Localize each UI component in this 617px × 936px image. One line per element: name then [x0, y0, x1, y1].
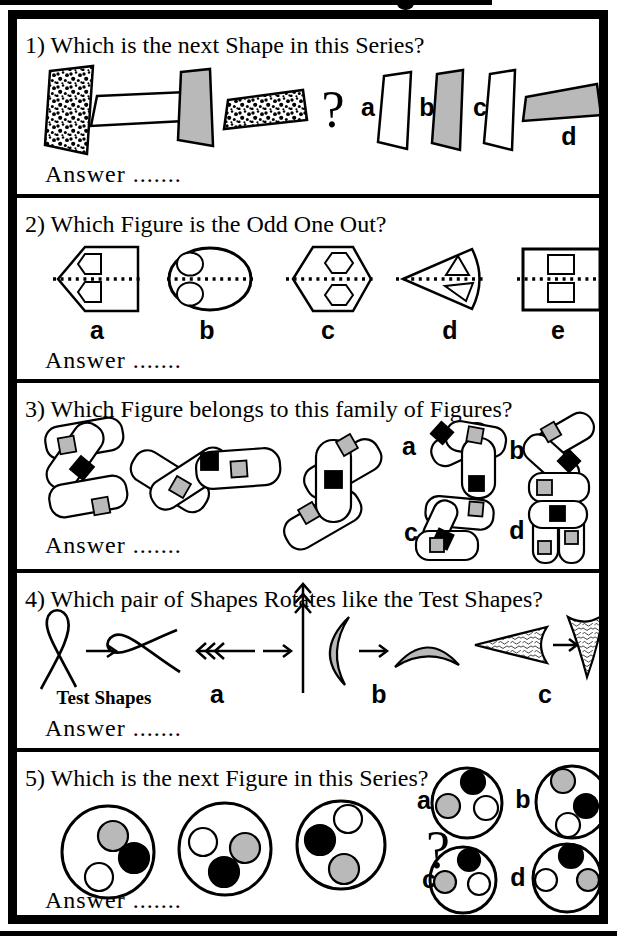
q2-figure-c[interactable] — [286, 247, 377, 311]
question-4-answer-blank[interactable]: Answer ....... — [45, 715, 182, 742]
q2-option-a-label[interactable]: a — [90, 316, 105, 344]
q3-family-figure-2 — [126, 442, 282, 517]
q3-option-d-label[interactable]: d — [509, 516, 524, 544]
scan-edge-artifact — [0, 931, 617, 936]
q5-series-circle-3 — [297, 801, 385, 889]
question-3-box: 3) Which Figure belongs to this family o… — [14, 380, 602, 572]
question-5-box: 5) Which is the next Figure in this Seri… — [14, 749, 602, 918]
q3-option-c-shape[interactable] — [416, 495, 495, 560]
q3-family-figure-1 — [41, 415, 129, 519]
q1-option-d-shape[interactable] — [523, 84, 599, 121]
cropped-page-title-remnant — [0, 0, 617, 10]
q1-option-b-shape[interactable] — [432, 70, 463, 150]
q2-option-c-label[interactable]: c — [321, 316, 335, 344]
q2-figure-d[interactable] — [396, 249, 485, 309]
q4-option-b-shape[interactable] — [330, 617, 459, 685]
q1-option-d-label[interactable]: d — [561, 122, 576, 150]
question-2-box: 2) Which Figure is the Odd One Out? — [14, 195, 602, 382]
q3-option-b-shape[interactable] — [518, 408, 598, 502]
q1-option-a-label[interactable]: a — [361, 93, 376, 121]
q3-option-a-shape[interactable] — [427, 419, 508, 498]
question-1-box: 1) Which is the next Shape in this Serie… — [14, 16, 602, 197]
q3-family-figure-3 — [279, 434, 387, 555]
q3-option-b-label[interactable]: b — [509, 436, 524, 464]
q5-option-b-shape[interactable] — [536, 766, 599, 838]
q1-option-c-shape[interactable] — [484, 70, 515, 150]
q3-option-d-shape[interactable] — [529, 501, 587, 563]
q5-option-a-shape[interactable] — [432, 768, 502, 838]
question-1-answer-blank[interactable]: Answer ....... — [45, 161, 182, 188]
q5-series-circle-1 — [62, 806, 154, 898]
q2-figure-a[interactable] — [53, 247, 143, 311]
q1-option-c-label[interactable]: c — [473, 93, 487, 121]
q5-option-b-label[interactable]: b — [515, 785, 530, 813]
q1-series-shape-4 — [224, 90, 307, 129]
q1-series-shape-3 — [178, 69, 213, 146]
question-2-answer-blank[interactable]: Answer ....... — [45, 347, 182, 374]
q2-option-b-label[interactable]: b — [199, 316, 214, 344]
question-1-title: 1) Which is the next Shape in this Serie… — [25, 32, 424, 60]
title-g-descender — [396, 0, 415, 10]
question-4-box: 4) Which pair of Shapes Rotates like the… — [14, 570, 602, 751]
q4-test-shapes-label: Test Shapes — [57, 687, 152, 708]
question-4-title: 4) Which pair of Shapes Rotates like the… — [25, 586, 543, 614]
q4-option-c-shape[interactable] — [475, 615, 599, 677]
q1-question-mark: ? — [321, 81, 344, 138]
q5-series-circle-2 — [179, 803, 271, 895]
q1-series-shape-1 — [45, 66, 93, 154]
q1-series: ? — [45, 66, 345, 154]
q2-figure-b[interactable] — [167, 248, 253, 310]
question-5-answer-blank[interactable]: Answer ....... — [45, 887, 182, 914]
q4-option-c-label[interactable]: c — [538, 680, 552, 708]
question-3-answer-blank[interactable]: Answer ....... — [45, 532, 182, 559]
q4-option-a-label[interactable]: a — [210, 680, 225, 708]
question-3-title: 3) Which Figure belongs to this family o… — [25, 396, 513, 424]
q4-option-b-label[interactable]: b — [371, 680, 386, 708]
question-5-title: 5) Which is the next Figure in this Seri… — [25, 765, 429, 793]
q4-test-shapes: Test Shapes — [41, 610, 180, 708]
q2-option-e-label[interactable]: e — [551, 316, 565, 344]
q5-option-c-shape[interactable] — [430, 847, 496, 913]
q3-option-a-label[interactable]: a — [402, 432, 417, 460]
worksheet-frame: 1) Which is the next Shape in this Serie… — [8, 10, 608, 924]
question-2-title: 2) Which Figure is the Odd One Out? — [25, 211, 387, 239]
q5-option-d-shape[interactable] — [533, 844, 599, 912]
q5-option-d-label[interactable]: d — [510, 863, 525, 891]
title-bar-remnant — [0, 0, 492, 5]
q1-option-b-label[interactable]: b — [419, 93, 434, 121]
q1-option-a-shape[interactable] — [378, 72, 411, 149]
q2-option-d-label[interactable]: d — [442, 316, 457, 344]
q2-figure-e[interactable] — [517, 249, 599, 310]
